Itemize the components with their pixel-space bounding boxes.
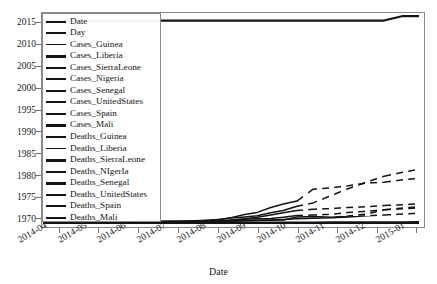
legend-swatch (46, 55, 66, 58)
y-tick-label: 2005 (0, 61, 36, 71)
legend-label: Deaths_Spain (70, 200, 121, 211)
legend-label: Cases_Nigeria (70, 73, 124, 84)
legend-label: Cases_SierraLeone (70, 62, 141, 73)
legend-label: Day (70, 27, 85, 38)
legend-swatch (46, 182, 66, 185)
y-tick-label: 1970 (0, 214, 36, 224)
legend-label: Cases_Liberia (70, 50, 123, 61)
y-tick-mark (36, 175, 41, 176)
ebola-line-chart-figure: 2015 2010 2005 2000 1995 1990 1985 1980 … (0, 0, 437, 284)
sparse-sampling-gap (391, 24, 396, 216)
legend-entry: Cases_Liberia (45, 50, 161, 61)
y-tick-label: 2010 (0, 39, 36, 49)
sparse-sampling-gap (403, 24, 408, 216)
legend-entry: Deaths_Liberia (45, 143, 161, 154)
legend-entry: Cases_Mali (45, 119, 161, 130)
sparse-sampling-gap (317, 24, 322, 216)
y-tick-label: 1995 (0, 105, 36, 115)
legend-label: Deaths_Guinea (70, 131, 127, 142)
y-tick-label: 2015 (0, 17, 36, 27)
legend-entry: Deaths_SierraLeone (45, 154, 161, 165)
legend-swatch (46, 159, 66, 162)
legend-swatch (46, 171, 66, 173)
legend-label: Deaths_Senegal (70, 177, 129, 188)
sparse-sampling-gap (365, 24, 370, 216)
y-tick-mark (36, 131, 41, 132)
legend-swatch (46, 136, 66, 138)
legend-swatch (46, 124, 66, 127)
sparse-sampling-gap (377, 24, 382, 216)
legend-label: Deaths_Mali (70, 212, 117, 222)
y-tick-mark (36, 218, 41, 219)
legend-swatch (46, 21, 66, 24)
legend-entry: Cases_UnitedStates (45, 96, 161, 107)
legend-label: Deaths_UnitedStates (70, 189, 147, 200)
legend-swatch (46, 67, 66, 69)
legend-swatch (46, 90, 66, 93)
legend-entry: Deaths_NIgerIa (45, 166, 161, 177)
y-tick-label: 1975 (0, 192, 36, 202)
chart-legend: DateDayCases_GuineaCases_LiberiaCases_Si… (42, 13, 161, 222)
legend-entry: Deaths_UnitedStates (45, 189, 161, 200)
legend-label: Cases_Spain (70, 108, 117, 119)
legend-entry: Cases_Spain (45, 108, 161, 119)
legend-label: Date (70, 16, 87, 27)
y-axis: 2015 2010 2005 2000 1995 1990 1985 1980 … (0, 0, 36, 284)
sparse-sampling-gap (415, 24, 420, 216)
legend-swatch (46, 44, 66, 46)
y-tick-label: 2000 (0, 83, 36, 93)
y-tick-mark (36, 22, 41, 23)
legend-swatch (46, 78, 66, 80)
legend-label: Deaths_Liberia (70, 143, 127, 154)
legend-swatch (46, 194, 66, 196)
legend-label: Cases_UnitedStates (70, 96, 143, 107)
y-tick-mark (36, 153, 41, 154)
legend-entry: Cases_Guinea (45, 39, 161, 50)
y-tick-label: 1980 (0, 171, 36, 181)
y-tick-mark (36, 44, 41, 45)
legend-swatch (46, 32, 66, 34)
legend-entry: Deaths_Mali (45, 212, 161, 222)
sparse-sampling-gap (353, 24, 358, 216)
legend-entry: Cases_Nigeria (45, 73, 161, 84)
legend-swatch (46, 217, 66, 220)
legend-label: Cases_Senegal (70, 85, 125, 96)
legend-entry: Day (45, 27, 161, 38)
legend-entry: Deaths_Guinea (45, 131, 161, 142)
legend-entry: Cases_SierraLeone (45, 62, 161, 73)
legend-label: Cases_Guinea (70, 39, 123, 50)
legend-entry: Date (45, 16, 161, 27)
y-tick-label: 1985 (0, 149, 36, 159)
sparse-sampling-gap (329, 24, 334, 216)
legend-entry: Deaths_Senegal (45, 177, 161, 188)
legend-swatch (46, 101, 66, 103)
sparse-sampling-gap (341, 24, 346, 216)
legend-swatch (46, 148, 66, 150)
legend-swatch (46, 113, 66, 115)
x-axis-title: Date (0, 266, 437, 277)
legend-entry: Cases_Senegal (45, 85, 161, 96)
legend-label: Cases_Mali (70, 119, 113, 130)
x-tick-mark (416, 228, 417, 233)
y-tick-mark (36, 197, 41, 198)
y-tick-mark (36, 88, 41, 89)
sparse-sampling-gap (303, 24, 308, 216)
y-tick-mark (36, 66, 41, 67)
legend-swatch (46, 205, 66, 207)
y-tick-label: 1990 (0, 127, 36, 137)
legend-label: Deaths_SierraLeone (70, 154, 145, 165)
legend-entry: Deaths_Spain (45, 200, 161, 211)
y-tick-mark (36, 110, 41, 111)
legend-label: Deaths_NIgerIa (70, 166, 129, 177)
